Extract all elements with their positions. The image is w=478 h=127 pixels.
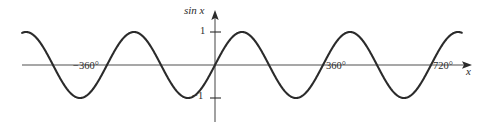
y-axis-title: sin x: [184, 5, 204, 16]
y-tick-label-minus-1: −1: [192, 91, 203, 102]
x-tick-label-360: 360°: [326, 61, 346, 72]
x-axis-title: x: [466, 66, 471, 77]
plot-canvas: [0, 0, 478, 127]
sine-curve-figure: sin x x 1 −1 −360° 360° 720°: [0, 0, 478, 127]
x-tick-label-minus-360: −360°: [73, 61, 99, 72]
y-tick-label-1: 1: [200, 26, 205, 37]
x-tick-label-720: 720°: [433, 61, 453, 72]
